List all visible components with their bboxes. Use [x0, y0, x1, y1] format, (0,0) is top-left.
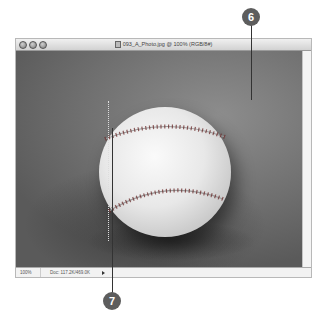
vertical-scrollbar[interactable] [302, 51, 311, 268]
status-menu-arrow-icon[interactable] [102, 271, 105, 275]
window-title: 093_A_Photo.jpg @ 100% (RGB/8#) [16, 40, 311, 49]
baseball-image [99, 107, 231, 237]
title-bar[interactable]: 093_A_Photo.jpg @ 100% (RGB/8#) [16, 39, 311, 51]
selection-marquee[interactable] [108, 101, 110, 241]
status-bar: 100% Doc: 117.2K/469.0K [16, 267, 311, 277]
document-info: Doc: 117.2K/469.0K [50, 268, 90, 277]
callout-7-badge: 7 [103, 292, 121, 310]
seam-stitching [99, 107, 231, 237]
callout-7-line [112, 128, 113, 294]
callout-6-line [251, 20, 252, 100]
document-icon [115, 41, 121, 48]
image-canvas[interactable] [16, 51, 303, 268]
callout-6-badge: 6 [242, 8, 260, 26]
zoom-level-field[interactable]: 100% [20, 268, 41, 277]
document-window: 093_A_Photo.jpg @ 100% (RGB/8#) 100% Doc… [15, 38, 312, 278]
